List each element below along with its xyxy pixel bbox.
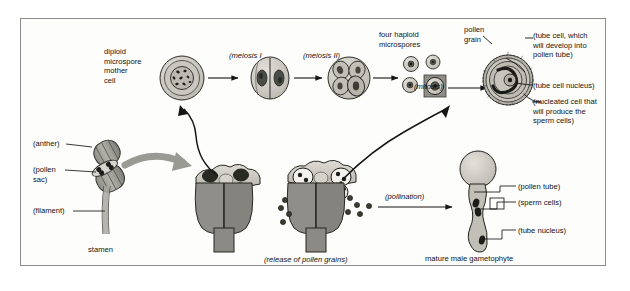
label-anther: (anther) bbox=[33, 139, 60, 149]
label-pollen-sac: (pollen sac) bbox=[33, 165, 56, 184]
label-tube-nucleus: (tube nucleus) bbox=[518, 226, 566, 236]
label-filament: (filament) bbox=[33, 206, 65, 216]
pollen-development-diagram: diploid microspore mother cell (meiosis … bbox=[0, 0, 630, 291]
label-pollen-grain: pollen grain bbox=[464, 25, 484, 44]
label-mitosis: (mitosis) bbox=[414, 82, 443, 92]
label-sperm-cells: (sperm cells) bbox=[518, 198, 561, 208]
label-pollen-tube: (pollen tube) bbox=[518, 182, 560, 192]
label-diploid-mother-cell: diploid microspore mother cell bbox=[104, 47, 142, 85]
label-meiosis-i: (meiosis I bbox=[229, 51, 262, 61]
label-four-haploid-microspores: four haploid microspores bbox=[379, 30, 420, 49]
label-mature-male-gametophyte: mature male gametophyte bbox=[425, 254, 513, 264]
label-tube-cell: (tube cell, which will develop into poll… bbox=[533, 31, 587, 60]
label-nucleated-cell: (nucleated cell that will produce the sp… bbox=[533, 97, 597, 126]
label-tube-cell-nucleus: (tube cell nucleus) bbox=[533, 81, 595, 91]
label-pollination: (pollination) bbox=[385, 192, 424, 202]
label-release-of-pollen-grains: (release of pollen grains) bbox=[264, 255, 348, 265]
label-meiosis-ii: (meiosis II) bbox=[303, 51, 340, 61]
label-stamen: stamen bbox=[88, 245, 113, 255]
